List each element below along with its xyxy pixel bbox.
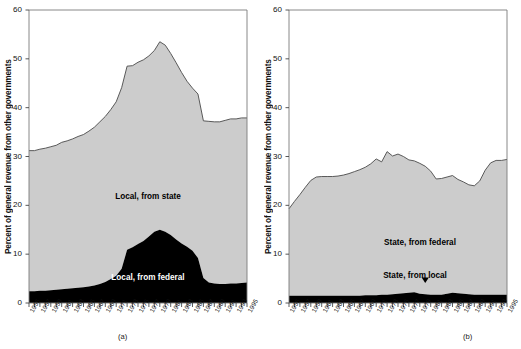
series-label-local-from-state: Local, from state	[115, 192, 181, 201]
y-tick-label: 0	[264, 298, 282, 307]
y-tick-label: 30	[4, 152, 22, 161]
panel-caption-a: (a)	[118, 332, 127, 341]
y-tick-label: 30	[264, 152, 282, 161]
y-tick-label: 10	[4, 249, 22, 258]
y-tick-label: 20	[4, 200, 22, 209]
figure-intergovernmental-revenue: Percent of general revenue from other go…	[0, 0, 521, 349]
panel-caption-b: (b)	[463, 332, 472, 341]
y-tick-label: 50	[4, 54, 22, 63]
y-tick-label: 40	[4, 103, 22, 112]
y-tick-label: 40	[264, 103, 282, 112]
y-tick-label: 0	[4, 298, 22, 307]
y-tick-label: 60	[264, 5, 282, 14]
plot-area-b	[260, 0, 520, 349]
chart-panel-b: Percent of general revenue from other go…	[260, 0, 520, 349]
series-label-state-from-local: State, from local	[383, 271, 447, 280]
series-label-local-from-federal: Local, from federal	[111, 273, 184, 282]
y-tick-label: 50	[264, 54, 282, 63]
chart-panel-a: Percent of general revenue from other go…	[0, 0, 260, 349]
series-label-state-from-federal: State, from federal	[384, 238, 456, 247]
y-tick-label: 20	[264, 200, 282, 209]
y-tick-label: 10	[264, 249, 282, 258]
plot-area-a	[0, 0, 260, 349]
y-tick-label: 60	[4, 5, 22, 14]
